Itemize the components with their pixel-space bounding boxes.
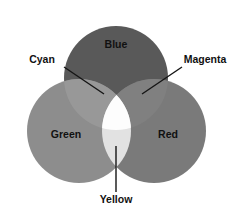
venn-diagram-figure: Blue Green Red Cyan Magenta Yellow [0, 0, 233, 212]
venn-label-blue: Blue [105, 38, 128, 50]
venn-label-red: Red [158, 128, 178, 140]
venn-diagram-canvas: Blue Green Red Cyan Magenta Yellow [0, 0, 233, 212]
venn-label-cyan: Cyan [29, 53, 55, 65]
venn-label-yellow: Yellow [100, 193, 134, 205]
venn-label-magenta: Magenta [184, 53, 227, 65]
venn-label-green: Green [51, 128, 81, 140]
